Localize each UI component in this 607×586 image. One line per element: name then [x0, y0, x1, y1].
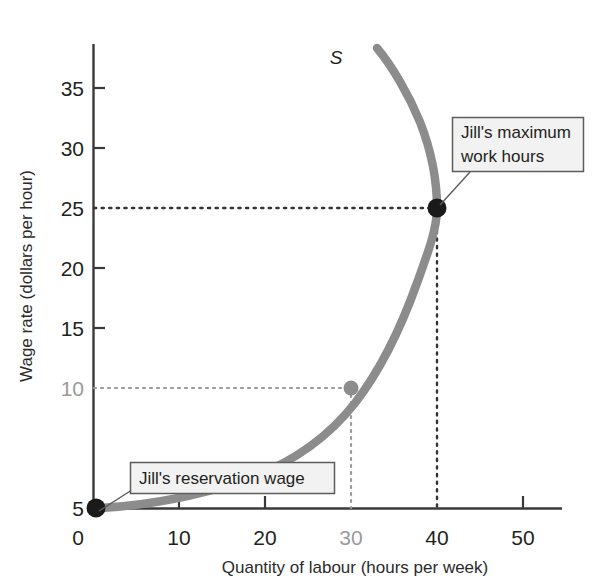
maximum-work-hours-leader-line: [440, 172, 470, 205]
maximum-work-hours-callout-line2: work hours: [460, 147, 544, 166]
curve-label-s: S: [330, 47, 343, 68]
thirty-hours-point: [344, 381, 359, 396]
y-tick-label-15: 15: [61, 317, 84, 340]
x-tick-label-10: 10: [167, 526, 190, 549]
y-tick-label-10: 10: [61, 377, 84, 400]
reservation-wage-callout-text: Jill's reservation wage: [139, 469, 305, 488]
y-tick-label-30: 30: [61, 137, 84, 160]
maximum-work-hours-callout: Jill's maximum work hours: [440, 118, 584, 206]
y-tick-labels: 35 30 25 20 15 10 5: [61, 77, 84, 520]
axes-group: [93, 44, 562, 509]
labour-supply-chart: S 35 30 25 20 15 10 5 0 10 20 30 40 50 Q…: [0, 0, 607, 586]
maximum-work-hours-callout-line1: Jill's maximum: [461, 123, 571, 142]
x-tick-label-20: 20: [253, 526, 276, 549]
x-tick-label-50: 50: [511, 526, 534, 549]
x-axis-title: Quantity of labour (hours per week): [222, 558, 488, 577]
y-axis-title: Wage rate (dollars per hour): [17, 170, 36, 382]
x-tick-label-30: 30: [339, 526, 362, 549]
y-tick-label-25: 25: [61, 197, 84, 220]
x-tick-label-0: 0: [72, 526, 84, 549]
y-tick-label-5: 5: [72, 497, 84, 520]
x-tick-labels: 0 10 20 30 40 50: [72, 526, 535, 549]
x-tick-label-40: 40: [425, 526, 448, 549]
chart-figure: S 35 30 25 20 15 10 5 0 10 20 30 40 50 Q…: [0, 0, 607, 586]
y-tick-label-20: 20: [61, 257, 84, 280]
y-tick-label-35: 35: [61, 77, 84, 100]
supply-curve: [101, 48, 437, 508]
